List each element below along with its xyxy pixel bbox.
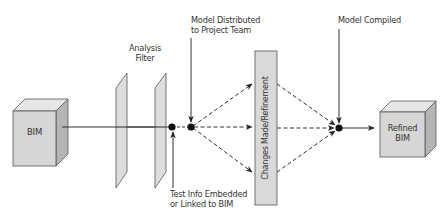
model-distributed-label-2: to Project Team — [191, 25, 251, 35]
analysis-filter-label-1: Analysis — [120, 43, 170, 53]
junction-dot-compiled — [335, 124, 342, 131]
bim-label: BIM — [13, 127, 56, 137]
junction-dot-test-info — [168, 123, 175, 130]
changes-label: Changes Made/Refinement — [261, 68, 271, 188]
model-distributed-label-1: Model Distributed — [191, 15, 260, 25]
refined-bim-label-1: Refined — [380, 123, 425, 133]
model-compiled-label: Model Compiled — [338, 15, 401, 25]
test-info-label-1: Test Info Embedded — [170, 189, 247, 199]
dashed-branches-in — [277, 84, 335, 172]
analysis-filter-panels — [116, 73, 166, 188]
refined-bim-label-2: BIM — [380, 133, 425, 143]
analysis-filter-label-2: Filter — [120, 53, 170, 63]
test-info-label-2: or Linked to BIM — [170, 199, 233, 209]
junction-dot-distributed — [187, 123, 194, 130]
dashed-branches-out — [193, 84, 252, 172]
